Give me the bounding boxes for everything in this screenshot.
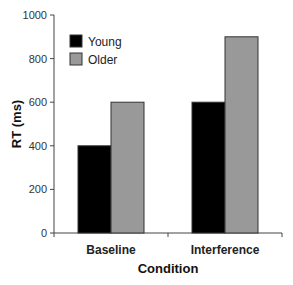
legend-swatch-older: [70, 53, 82, 65]
x-category-label: Baseline: [86, 243, 136, 257]
y-tick-label: 400: [29, 140, 47, 152]
bar-older-baseline: [111, 102, 144, 233]
bar-older-interference: [225, 37, 258, 233]
y-tick-label: 800: [29, 53, 47, 65]
legend-label-older: Older: [88, 53, 117, 67]
y-tick-label: 200: [29, 183, 47, 195]
legend-label-young: Young: [88, 35, 122, 49]
legend-swatch-young: [70, 35, 82, 47]
x-axis-title: Condition: [138, 261, 199, 276]
bar-young-interference: [192, 102, 225, 233]
y-axis-title: RT (ms): [9, 100, 24, 148]
x-category-labels: BaselineInterference: [86, 243, 259, 257]
y-ticks: 02004006008001000: [23, 9, 54, 239]
y-tick-label: 0: [41, 227, 47, 239]
bar-young-baseline: [78, 146, 111, 233]
legend: YoungOlder: [70, 35, 122, 67]
bar-chart: 02004006008001000 BaselineInterference Y…: [0, 0, 293, 285]
y-tick-label: 600: [29, 96, 47, 108]
y-tick-label: 1000: [23, 9, 47, 21]
x-category-label: Interference: [191, 243, 260, 257]
